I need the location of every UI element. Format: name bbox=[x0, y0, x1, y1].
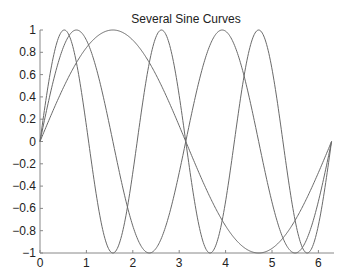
sine-chart: Several Sine Curves 012345610.80.60.40.2… bbox=[0, 0, 347, 278]
line-sin3x bbox=[40, 30, 332, 253]
y-tick-label: −1 bbox=[22, 246, 36, 260]
y-tick-label: 0 bbox=[29, 135, 36, 149]
y-tick-label: 1 bbox=[29, 23, 36, 37]
x-tick-label: 6 bbox=[315, 256, 322, 270]
y-tick-label: −0.4 bbox=[12, 179, 36, 193]
x-tick-label: 2 bbox=[129, 256, 136, 270]
y-tick-label: −0.6 bbox=[12, 201, 36, 215]
x-tick-label: 0 bbox=[37, 256, 44, 270]
y-tick-label: 0.6 bbox=[19, 68, 36, 82]
plot-lines bbox=[40, 30, 332, 253]
x-tick-label: 3 bbox=[176, 256, 183, 270]
x-tick-label: 4 bbox=[222, 256, 229, 270]
y-tick-label: −0.2 bbox=[12, 157, 36, 171]
y-tick-label: 0.8 bbox=[19, 45, 36, 59]
x-tick-label: 5 bbox=[269, 256, 276, 270]
chart-title: Several Sine Curves bbox=[131, 12, 240, 26]
y-tick-label: −0.8 bbox=[12, 224, 36, 238]
y-tick-label: 0.4 bbox=[19, 90, 36, 104]
x-tick-label: 1 bbox=[83, 256, 90, 270]
y-tick-label: 0.2 bbox=[19, 112, 36, 126]
